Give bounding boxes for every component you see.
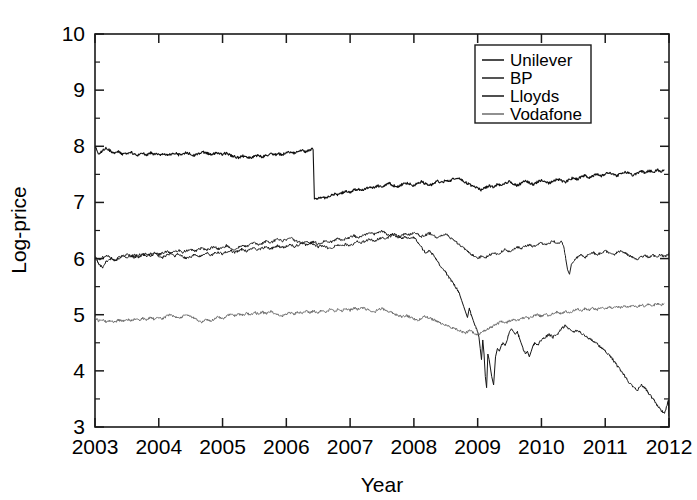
y-axis-title: Log-price bbox=[7, 186, 30, 274]
x-axis-title: Year bbox=[361, 473, 403, 496]
y-tick-label: 9 bbox=[73, 78, 85, 101]
y-tick-label: 5 bbox=[73, 303, 85, 326]
x-tick-label: 2007 bbox=[327, 435, 374, 458]
figure-container: 345678910 200320042005200620072008200920… bbox=[0, 0, 697, 500]
legend-label-lloyds: Lloyds bbox=[510, 87, 559, 106]
y-tick-label: 10 bbox=[62, 22, 85, 45]
x-tick-label: 2006 bbox=[263, 435, 310, 458]
x-tick-label: 2004 bbox=[135, 435, 182, 458]
x-tick-label: 2012 bbox=[646, 435, 693, 458]
y-tick-label: 8 bbox=[73, 134, 85, 157]
line-chart: 345678910 200320042005200620072008200920… bbox=[0, 0, 697, 500]
x-tick-label: 2009 bbox=[454, 435, 501, 458]
y-tick-label: 6 bbox=[73, 247, 85, 270]
x-tick-label: 2005 bbox=[199, 435, 246, 458]
x-tick-label: 2003 bbox=[72, 435, 119, 458]
legend-label-bp: BP bbox=[510, 69, 533, 88]
x-tick-label: 2011 bbox=[583, 435, 628, 458]
chart-legend[interactable]: UnileverBPLloydsVodafone bbox=[475, 45, 591, 124]
legend-label-vodafone: Vodafone bbox=[510, 105, 582, 124]
legend-label-unilever: Unilever bbox=[510, 51, 573, 70]
y-tick-label: 4 bbox=[73, 359, 85, 382]
x-tick-label: 2010 bbox=[518, 435, 565, 458]
chart-background bbox=[0, 0, 697, 500]
y-tick-label: 7 bbox=[73, 190, 85, 213]
x-tick-label: 2008 bbox=[391, 435, 438, 458]
